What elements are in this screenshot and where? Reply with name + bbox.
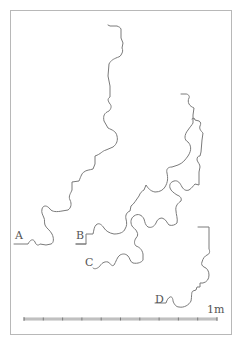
profile-c-label: C <box>85 257 93 268</box>
profile-b-outline <box>76 94 194 244</box>
profile-a-outline <box>14 25 123 245</box>
profile-d-label: D <box>155 294 164 305</box>
profile-b-label: B <box>76 230 84 241</box>
profile-a-label: A <box>15 230 23 241</box>
scale-bar-label: 1m <box>207 304 224 315</box>
scale-bar <box>24 317 217 321</box>
profiles-drawing <box>0 0 240 339</box>
